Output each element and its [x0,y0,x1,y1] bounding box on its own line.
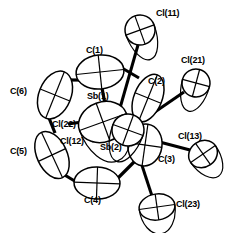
atom-label-Cl21: Cl(21) [181,56,205,65]
ellipsoid-C5 [28,126,76,184]
atom-label-C5: C(5) [10,147,27,156]
atom-label-C6: C(6) [10,87,27,96]
ellipsoid-Cl11 [121,11,165,65]
ellipsoid-C6 [31,66,79,124]
atom-label-C2: C(2) [148,77,165,86]
bond-C4-C3 [118,161,135,178]
atom-label-Cl13: Cl(13) [178,132,202,141]
atom-label-Cl23: Cl(23) [176,200,200,209]
atom-label-C3: C(3) [158,155,175,164]
atom-label-Cl22: Cl(22) [52,120,76,129]
atom-label-Sb1: Sb(1) [87,92,109,101]
ellipsoid-Cl23 [137,192,178,233]
atom-label-C4: C(4) [84,196,101,205]
atom-label-Cl12: Cl(12) [60,137,84,146]
ellipsoid-Cl13 [183,135,229,185]
atom-label-Cl11: Cl(11) [156,9,179,18]
ortep-figure: Cl(11)Cl(21)Cl(13)Cl(23)Cl(22)Cl(12)C(1)… [0,0,229,233]
atom-label-Sb2: Sb(2) [100,143,122,152]
atom-label-C1: C(1) [86,46,103,55]
ellipsoid-Cl21 [175,66,213,115]
ellipsoid-C1 [74,53,125,92]
